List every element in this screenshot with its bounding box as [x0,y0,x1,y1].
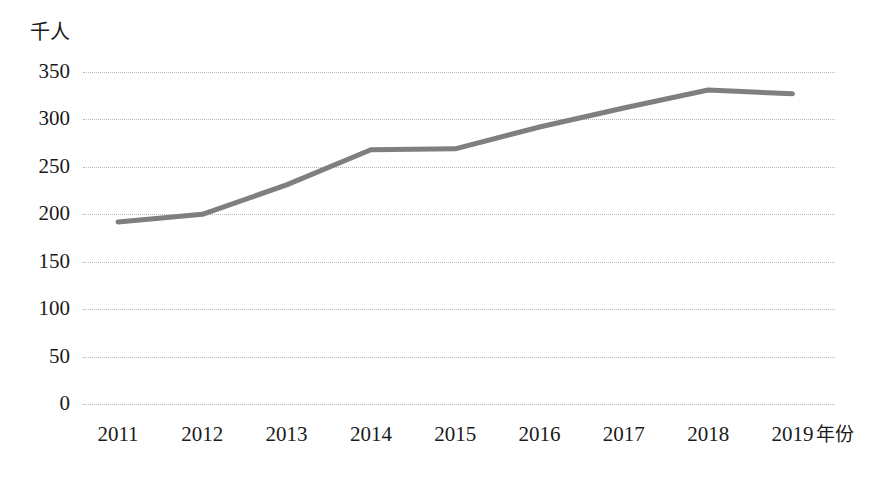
x-tick-label-2019: 2019 [771,424,813,445]
x-tick-label-2014: 2014 [350,424,392,445]
y-tick-label-200: 200 [8,203,70,224]
line-chart: 千人 350300250200150100500 年份 201120122013… [0,0,880,479]
y-tick-label-350: 350 [8,61,70,82]
y-tick-label-300: 300 [8,108,70,129]
x-tick-label-2011: 2011 [97,424,138,445]
y-tick-label-0: 0 [8,393,70,414]
y-tick-label-50: 50 [8,346,70,367]
y-tick-label-150: 150 [8,251,70,272]
x-tick-label-2013: 2013 [266,424,308,445]
x-tick-label-2015: 2015 [434,424,476,445]
x-tick-label-2018: 2018 [687,424,729,445]
x-axis-tick-labels: 年份 201120122013201420152016201720182019 [0,424,880,452]
y-tick-label-100: 100 [8,298,70,319]
y-axis-unit-label: 千人 [30,22,70,42]
x-tick-label-2016: 2016 [519,424,561,445]
y-tick-label-250: 250 [8,156,70,177]
y-axis-tick-labels: 350300250200150100500 [8,72,70,404]
data-series-line [83,72,835,404]
plot-area [83,72,835,404]
x-tick-label-2017: 2017 [603,424,645,445]
x-axis-title: 年份 [816,425,854,444]
gridline-0 [83,404,835,405]
x-tick-label-2012: 2012 [181,424,223,445]
